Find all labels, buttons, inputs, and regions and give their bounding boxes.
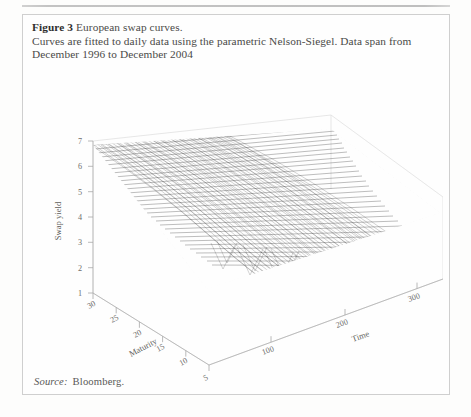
z-tick-label-4: 4 <box>78 213 82 222</box>
z-tick-label-5: 5 <box>78 188 82 197</box>
figure-caption: Figure 3 European swap curves. Curves ar… <box>32 21 436 62</box>
figure-source-note: Source:Bloomberg. <box>34 376 124 387</box>
x-tick-label-30: 30 <box>86 299 97 311</box>
source-label: Source: <box>34 376 68 387</box>
x-tick-label-25: 25 <box>109 313 120 325</box>
z-tick-label-7: 7 <box>78 137 82 146</box>
axes-bounding-box <box>93 115 443 365</box>
figure-label: Figure 3 <box>32 21 73 33</box>
mesh-front-fringe <box>211 241 431 293</box>
y-axis-title: Time <box>350 328 370 344</box>
z-axis: 1 2 3 4 5 6 7 Swap yield <box>53 137 93 298</box>
source-value: Bloomberg. <box>73 376 125 387</box>
caption-description-line-2: December 1996 to December 2004 <box>32 48 436 62</box>
figure-title: European swap curves. <box>76 21 183 33</box>
caption-title-line: Figure 3 European swap curves. <box>32 21 436 35</box>
z-tick-label-1: 1 <box>78 289 82 298</box>
mesh-density-fill <box>94 124 426 303</box>
figure-frame: Figure 3 European swap curves. Curves ar… <box>22 14 450 395</box>
mesh-ribs-maturity <box>93 123 439 266</box>
z-tick-label-3: 3 <box>78 238 82 247</box>
z-tick-label-2: 2 <box>78 264 82 273</box>
swap-curve-surface-plot: 1 2 3 4 5 6 7 Swap yield 30 25 20 <box>31 93 443 381</box>
x-axis-maturity: 30 25 20 15 10 5 Maturity <box>86 293 210 381</box>
plot-svg: 1 2 3 4 5 6 7 Swap yield 30 25 20 <box>31 93 443 381</box>
y-tick-label-200: 200 <box>335 317 350 330</box>
surface-mesh <box>93 122 441 303</box>
y-tick-label-300: 300 <box>407 291 422 304</box>
x-tick-label-10: 10 <box>178 356 189 368</box>
z-tick-label-6: 6 <box>78 162 82 171</box>
z-axis-title: Swap yield <box>53 201 63 240</box>
page-rule <box>22 5 450 7</box>
x-tick-label-20: 20 <box>132 328 143 340</box>
y-tick-label-100: 100 <box>261 344 276 357</box>
y-axis-time: 100 200 300 Time <box>209 279 443 365</box>
caption-description-line-1: Curves are fitted to daily data using th… <box>32 35 436 49</box>
x-tick-label-5: 5 <box>202 373 210 381</box>
